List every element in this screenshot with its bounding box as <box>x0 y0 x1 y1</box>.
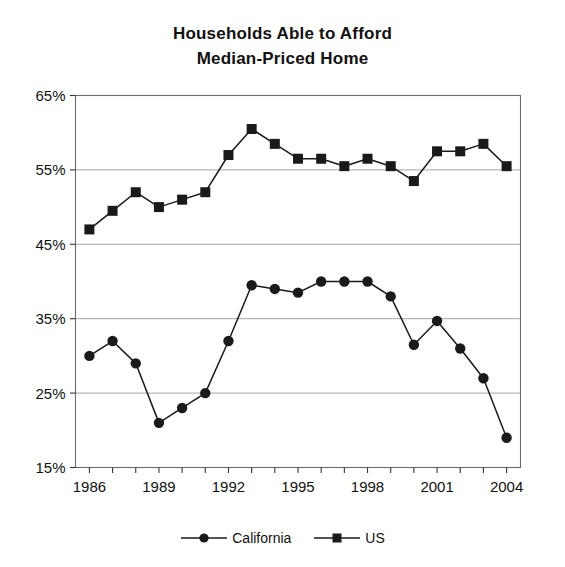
data-point-circle <box>246 280 256 290</box>
series-california <box>84 276 512 443</box>
data-point-circle <box>84 351 94 361</box>
gridlines <box>76 170 521 393</box>
data-point-circle <box>455 343 465 353</box>
data-point-circle <box>200 388 210 398</box>
data-point-circle <box>316 276 326 286</box>
series-us <box>84 124 511 234</box>
data-point-square <box>84 224 94 234</box>
data-point-square <box>478 139 488 149</box>
data-point-circle <box>270 284 280 294</box>
legend-label-us: US <box>365 530 384 546</box>
data-point-square <box>247 124 257 134</box>
data-point-square <box>502 161 512 171</box>
svg-text:2004: 2004 <box>490 478 523 495</box>
svg-text:1995: 1995 <box>281 478 314 495</box>
svg-text:35%: 35% <box>35 310 65 327</box>
data-point-circle <box>432 316 442 326</box>
svg-text:25%: 25% <box>35 385 65 402</box>
data-series-layer <box>84 124 512 443</box>
data-point-circle <box>478 373 488 383</box>
legend-marker-circle-icon <box>180 531 228 545</box>
data-point-square <box>108 206 118 216</box>
chart-container: Households Able to Afford Median-Priced … <box>0 0 565 567</box>
data-point-square <box>177 195 187 205</box>
data-point-circle <box>386 291 396 301</box>
svg-text:1986: 1986 <box>73 478 106 495</box>
data-point-square <box>386 161 396 171</box>
data-point-square <box>293 154 303 164</box>
data-point-circle <box>177 403 187 413</box>
svg-text:1992: 1992 <box>212 478 245 495</box>
data-point-square <box>455 146 465 156</box>
svg-text:65%: 65% <box>35 87 65 104</box>
legend-label-california: California <box>232 530 291 546</box>
svg-text:15%: 15% <box>35 459 65 476</box>
chart-plot-area: 15%25%35%45%55%65% 198619891992199519982… <box>0 0 565 567</box>
x-axis-ticks <box>89 468 506 474</box>
data-point-square <box>339 161 349 171</box>
data-point-square <box>316 154 326 164</box>
chart-legend: California US <box>0 528 565 546</box>
legend-item-us: US <box>313 529 384 546</box>
x-axis-tick-labels: 1986198919921995199820012004 <box>73 478 524 495</box>
svg-text:2001: 2001 <box>420 478 453 495</box>
data-point-circle <box>339 276 349 286</box>
svg-text:1998: 1998 <box>351 478 384 495</box>
data-point-circle <box>131 358 141 368</box>
data-point-square <box>270 139 280 149</box>
y-axis-ticks <box>70 96 76 468</box>
legend-item-california: California <box>180 529 291 546</box>
data-point-square <box>363 154 373 164</box>
data-point-circle <box>107 336 117 346</box>
legend-marker-square-icon <box>313 531 361 545</box>
data-point-circle <box>501 433 511 443</box>
data-point-circle <box>293 287 303 297</box>
y-axis-tick-labels: 15%25%35%45%55%65% <box>35 87 65 476</box>
data-point-square <box>432 146 442 156</box>
data-point-square <box>223 150 233 160</box>
data-point-square <box>154 202 164 212</box>
data-point-circle <box>409 340 419 350</box>
data-point-circle <box>154 418 164 428</box>
svg-text:45%: 45% <box>35 236 65 253</box>
data-point-circle <box>223 336 233 346</box>
data-point-square <box>409 176 419 186</box>
svg-text:1989: 1989 <box>142 478 175 495</box>
data-point-square <box>131 187 141 197</box>
data-point-circle <box>362 276 372 286</box>
svg-text:55%: 55% <box>35 161 65 178</box>
data-point-square <box>200 187 210 197</box>
